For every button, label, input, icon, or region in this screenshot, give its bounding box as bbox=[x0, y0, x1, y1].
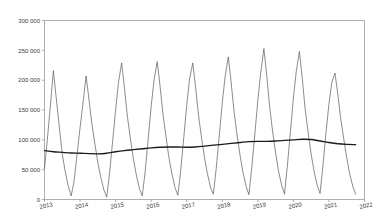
y-tick-label: 50 000 bbox=[22, 167, 41, 173]
y-tick-label: 150 000 bbox=[18, 107, 40, 113]
axis-frame bbox=[45, 21, 365, 200]
y-tick-label: 100 000 bbox=[18, 137, 40, 143]
x-tick-label: 2022 bbox=[359, 201, 374, 210]
x-tick-label: 2016 bbox=[146, 201, 161, 210]
y-tick-label: 300 000 bbox=[18, 18, 40, 24]
x-tick-label: 2014 bbox=[75, 201, 90, 210]
series-seasonal-line bbox=[45, 49, 356, 198]
x-tick-label: 2013 bbox=[39, 201, 54, 210]
x-tick-label: 2021 bbox=[323, 201, 338, 210]
x-axis-labels: 2013201420152016201720182019202020212022 bbox=[39, 201, 374, 210]
line-chart: 050 000100 000150 000200 000250 000300 0… bbox=[0, 0, 378, 224]
x-tick-label: 2015 bbox=[110, 201, 125, 210]
x-tick-label: 2019 bbox=[252, 201, 267, 210]
x-tick-label: 2020 bbox=[288, 201, 303, 210]
y-tick-label: 0 bbox=[37, 197, 41, 203]
plot-frame bbox=[45, 21, 365, 200]
series-trend-line bbox=[45, 139, 356, 154]
data-series-group bbox=[45, 49, 356, 198]
chart-container: 050 000100 000150 000200 000250 000300 0… bbox=[0, 0, 378, 224]
x-tick-label: 2018 bbox=[217, 201, 232, 210]
y-tick-label: 250 000 bbox=[18, 48, 40, 54]
x-tick-label: 2017 bbox=[181, 201, 196, 210]
y-tick-label: 200 000 bbox=[18, 77, 40, 83]
y-axis-labels: 050 000100 000150 000200 000250 000300 0… bbox=[18, 18, 40, 203]
